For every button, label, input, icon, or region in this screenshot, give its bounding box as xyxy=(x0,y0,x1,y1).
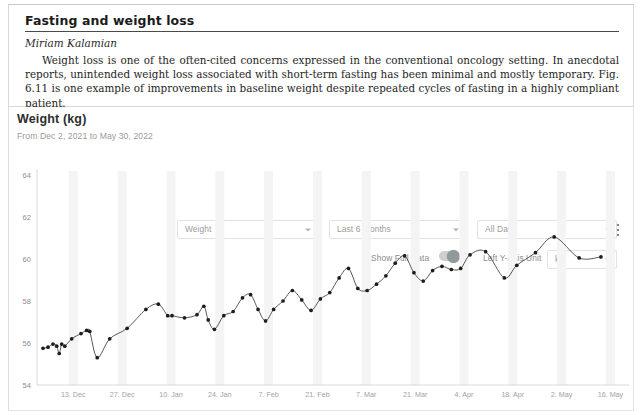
x-axis: 13. Dec27. Dec10. Jan24. Jan7. Feb21. Fe… xyxy=(37,385,629,399)
weekend-bands xyxy=(69,171,615,385)
svg-text:60: 60 xyxy=(23,255,31,264)
panel-title-block: Weight (kg) From Dec 2, 2021 to May 30, … xyxy=(17,112,153,142)
book-page: Fasting and weight loss Miriam Kalamian … xyxy=(8,4,634,107)
svg-text:13. Dec: 13. Dec xyxy=(61,390,86,399)
chart-svg: 545658606264 13. Dec27. Dec10. Jan24. Ja… xyxy=(9,165,635,411)
svg-text:2. May: 2. May xyxy=(551,390,573,399)
svg-text:21. Mar: 21. Mar xyxy=(403,390,428,399)
svg-text:4. Apr: 4. Apr xyxy=(455,390,474,399)
page-title: Weight (kg) xyxy=(17,112,153,127)
svg-text:18. Apr: 18. Apr xyxy=(501,390,524,399)
y-axis: 545658606264 xyxy=(23,169,37,390)
weight-chart-panel: Weight (kg) From Dec 2, 2021 to May 30, … xyxy=(8,107,634,411)
svg-text:56: 56 xyxy=(23,339,31,348)
svg-text:27. Dec: 27. Dec xyxy=(110,390,135,399)
svg-text:7. Feb: 7. Feb xyxy=(258,390,278,399)
section-author: Miriam Kalamian xyxy=(25,37,619,50)
svg-text:24. Jan: 24. Jan xyxy=(208,390,232,399)
svg-text:64: 64 xyxy=(23,171,31,180)
screenshot-root: Fasting and weight loss Miriam Kalamian … xyxy=(0,0,642,415)
weight-line-chart: 545658606264 13. Dec27. Dec10. Jan24. Ja… xyxy=(9,165,635,411)
section-title: Fasting and weight loss xyxy=(25,13,619,32)
svg-text:7. Mar: 7. Mar xyxy=(356,390,377,399)
date-range-subtitle: From Dec 2, 2021 to May 30, 2022 xyxy=(17,130,153,142)
svg-text:16. May: 16. May xyxy=(598,390,624,399)
svg-text:58: 58 xyxy=(23,297,31,306)
svg-text:10. Jan: 10. Jan xyxy=(159,390,183,399)
svg-text:62: 62 xyxy=(23,213,31,222)
svg-text:21. Feb: 21. Feb xyxy=(305,390,329,399)
svg-text:54: 54 xyxy=(23,381,31,390)
section-paragraph: Weight loss is one of the often-cited co… xyxy=(25,53,619,110)
panel-header: Weight (kg) From Dec 2, 2021 to May 30, … xyxy=(9,107,633,162)
